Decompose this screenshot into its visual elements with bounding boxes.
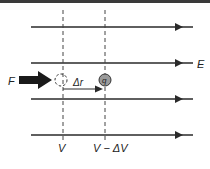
- force-arrow-icon: [19, 71, 52, 89]
- electric-field-diagram: E F q Δr V V − ΔV: [0, 0, 210, 169]
- potential-v-label: V: [58, 142, 67, 154]
- arrowhead-icon: [95, 86, 103, 93]
- arrowhead-icon: [175, 95, 183, 103]
- initial-position-circle: [55, 74, 67, 86]
- arrowhead-icon: [175, 59, 183, 67]
- arrowhead-icon: [175, 131, 183, 139]
- charge-label: q: [102, 76, 107, 85]
- field-lines: [31, 23, 193, 139]
- arrowhead-icon: [175, 23, 183, 31]
- potential-v-minus-dv-label: V − ΔV: [93, 142, 129, 154]
- displacement-label: Δr: [72, 77, 84, 88]
- field-label: E: [197, 58, 205, 70]
- force-label: F: [8, 75, 16, 87]
